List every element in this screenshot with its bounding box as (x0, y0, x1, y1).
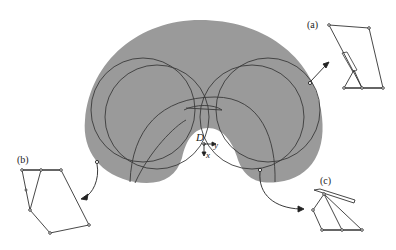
diagram-canvas (0, 0, 396, 250)
workspace-diagram: (a) (b) (c) D y x (0, 0, 396, 250)
point-b (95, 160, 98, 163)
origin-label: D (196, 131, 204, 143)
y-axis-label: y (214, 140, 218, 150)
point-a (308, 81, 311, 84)
x-axis-label: x (206, 150, 210, 160)
inset-b-mechanism (21, 169, 91, 235)
inset-c-mechanism (312, 189, 364, 231)
arrow-b (85, 164, 98, 197)
arrow-a (311, 65, 326, 81)
point-c (258, 168, 261, 171)
label-a: (a) (307, 19, 318, 30)
inset-a-mechanism (328, 24, 385, 90)
label-b: (b) (17, 154, 29, 165)
label-c: (c) (320, 175, 331, 186)
